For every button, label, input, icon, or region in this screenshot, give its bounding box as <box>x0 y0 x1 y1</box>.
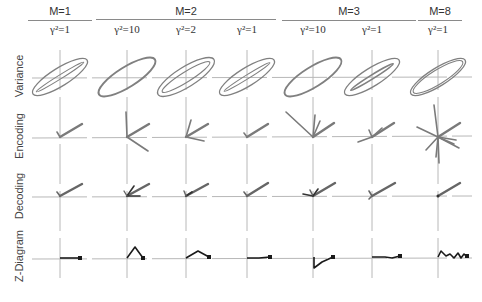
z-diagram-col5 <box>314 255 335 268</box>
encoding-col6 <box>358 123 394 142</box>
horizontal-axes <box>32 77 472 259</box>
z-diagram-col4 <box>247 255 272 259</box>
decoding-col2 <box>124 184 149 196</box>
encoding-col5 <box>286 112 334 137</box>
encoding-col2 <box>126 112 149 151</box>
decoding-col5 <box>303 183 335 196</box>
z-diagram-col3 <box>186 251 211 259</box>
z-diagram-col6 <box>372 254 402 258</box>
encoding-col3 <box>186 120 208 141</box>
decoding-col7 <box>437 183 461 198</box>
decoding-col4 <box>244 183 268 196</box>
decoding-col1 <box>57 184 82 196</box>
encoding-col1 <box>57 124 82 137</box>
encoding-vectors <box>57 105 460 163</box>
diagram-grid <box>0 0 482 302</box>
z-diagram-col7 <box>438 251 469 258</box>
z-diagram-paths <box>60 247 469 268</box>
z-diagram-col2 <box>127 247 145 260</box>
decoding-col3 <box>184 184 208 196</box>
encoding-col4 <box>244 124 268 137</box>
vertical-axes <box>60 50 438 285</box>
